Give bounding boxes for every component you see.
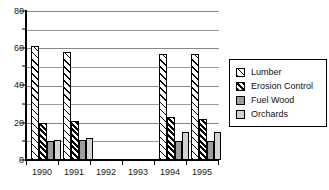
plot-area <box>26 11 219 160</box>
bar-erosion-1990 <box>39 123 47 160</box>
bar-group-1991 <box>63 11 92 160</box>
x-tick-label-1992: 1992 <box>96 167 116 177</box>
x-tick-label-1991: 1991 <box>64 167 84 177</box>
bar-fuelwood-1995 <box>207 141 214 160</box>
bar-lumber-1991 <box>63 52 71 160</box>
bar-orchards-1990 <box>54 140 61 161</box>
legend-item-fuel-wood: Fuel Wood <box>236 93 322 107</box>
x-tick-mark <box>90 160 91 165</box>
bar-erosion-1995 <box>199 119 207 160</box>
x-tick-label-1993: 1993 <box>128 167 148 177</box>
bar-group-1995 <box>191 11 220 160</box>
x-tick-mark <box>186 160 187 165</box>
bar-orchards-1995 <box>214 132 221 160</box>
x-tick-mark <box>154 160 155 165</box>
bar-group-1990 <box>31 11 60 160</box>
legend-label-fuel-wood: Fuel Wood <box>251 96 294 105</box>
bar-group-1993 <box>127 11 156 160</box>
bar-fuelwood-1994 <box>175 141 182 160</box>
x-tick-label-1994: 1994 <box>160 167 180 177</box>
bar-chart: 80 60 40 20 0 <box>0 0 329 190</box>
bar-erosion-1991 <box>71 121 79 160</box>
legend-label-lumber: Lumber <box>251 68 282 77</box>
legend-swatch-erosion-control-icon <box>236 82 245 91</box>
legend-label-orchards: Orchards <box>251 110 288 119</box>
y-axis-line <box>25 10 27 161</box>
legend-item-lumber: Lumber <box>236 65 322 79</box>
legend-label-erosion-control: Erosion Control <box>251 82 313 91</box>
x-tick-mark <box>218 160 219 165</box>
x-tick-label-1990: 1990 <box>32 167 52 177</box>
bar-group-1994 <box>159 11 188 160</box>
chart-legend: Lumber Erosion Control Fuel Wood Orchard… <box>229 59 327 127</box>
bar-group-1992 <box>95 11 124 160</box>
legend-swatch-fuel-wood-icon <box>236 96 245 105</box>
plot-region: 80 60 40 20 0 <box>0 0 225 190</box>
bar-fuelwood-1991 <box>79 140 86 161</box>
y-axis-labels: 80 60 40 20 0 <box>0 0 24 190</box>
legend-item-orchards: Orchards <box>236 107 322 121</box>
bar-lumber-1994 <box>159 54 167 160</box>
x-tick-label-1995: 1995 <box>192 167 212 177</box>
bar-erosion-1994 <box>167 117 175 160</box>
bar-orchards-1991 <box>86 138 93 160</box>
legend-swatch-lumber-icon <box>236 68 245 77</box>
bar-lumber-1990 <box>31 46 39 160</box>
bar-lumber-1995 <box>191 54 199 160</box>
x-tick-mark <box>122 160 123 165</box>
bar-orchards-1994 <box>182 132 189 160</box>
bar-fuelwood-1990 <box>47 141 54 160</box>
legend-item-erosion-control: Erosion Control <box>236 79 322 93</box>
x-tick-mark <box>26 160 27 165</box>
legend-swatch-orchards-icon <box>236 110 245 119</box>
x-tick-mark <box>58 160 59 165</box>
